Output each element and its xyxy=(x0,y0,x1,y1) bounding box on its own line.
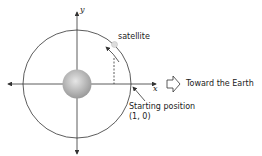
satellite-icon xyxy=(112,42,118,48)
x-axis-label: x xyxy=(153,84,158,93)
start-pointer xyxy=(133,87,145,101)
direction-label: Toward the Earth xyxy=(186,79,254,89)
orbit-diagram xyxy=(0,0,262,156)
satellite-label: satellite xyxy=(118,32,150,42)
start-coordinates: (1, 0) xyxy=(129,112,151,122)
direction-arrow-icon xyxy=(167,76,180,92)
y-axis-label: y xyxy=(80,5,85,14)
motion-arrow xyxy=(106,47,119,62)
earth-icon xyxy=(63,70,92,99)
start-position-label: Starting position xyxy=(129,102,195,112)
